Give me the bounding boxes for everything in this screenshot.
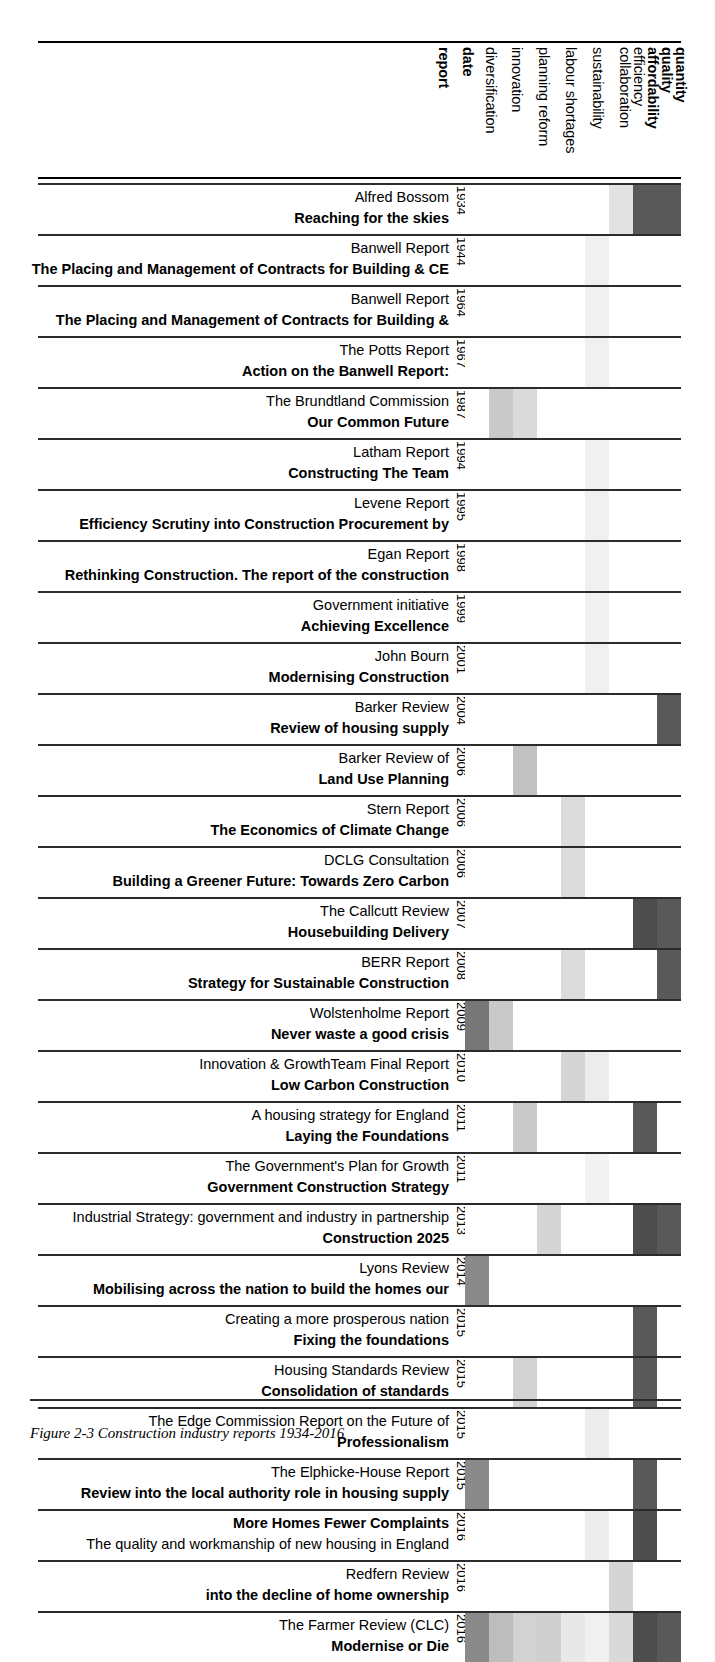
report-author: DCLG Consultation (0, 850, 455, 871)
report-title: Our Common Future (0, 412, 455, 433)
theme-cell (489, 746, 513, 795)
column-header-innovation: innovation (509, 47, 524, 112)
report-title: Efficiency Scrutiny into Construction Pr… (0, 514, 455, 535)
theme-cell (633, 1562, 657, 1611)
table-row: The Elphicke-House ReportReview into the… (0, 1458, 715, 1509)
table-row: Redfern Reviewinto the decline of home o… (0, 1560, 715, 1611)
column-header-diversification: diversification (483, 47, 498, 133)
row-labels: Barker Review ofLand Use Planning (0, 744, 455, 795)
theme-cell (513, 950, 537, 999)
theme-cell (561, 542, 585, 591)
theme-cell (585, 389, 609, 438)
column-header-quality: quality (659, 47, 674, 93)
theme-cell (537, 440, 561, 489)
theme-cell (513, 440, 537, 489)
theme-cell (537, 797, 561, 846)
theme-cell (657, 440, 681, 489)
report-title: Construction 2025 (0, 1228, 455, 1249)
table-row: More Homes Fewer ComplaintsThe quality a… (0, 1509, 715, 1560)
table-row: A housing strategy for EnglandLaying the… (0, 1101, 715, 1152)
theme-cell (633, 746, 657, 795)
report-title: The quality and workmanship of new housi… (0, 1534, 455, 1555)
theme-cell (609, 1103, 633, 1152)
theme-cell (609, 899, 633, 948)
theme-cell (489, 848, 513, 897)
table-row: Egan ReportRethinking Construction. The … (0, 540, 715, 591)
theme-cell (657, 899, 681, 948)
theme-cell (609, 440, 633, 489)
table-row: Banwell ReportThe Placing and Management… (0, 234, 715, 285)
theme-cell (657, 1511, 681, 1560)
report-author: Wolstenholme Report (0, 1003, 455, 1024)
table-row: The Callcutt ReviewHousebuilding Deliver… (0, 897, 715, 948)
report-author: Industrial Strategy: government and indu… (0, 1207, 455, 1228)
theme-cell (657, 1613, 681, 1662)
theme-cell (657, 797, 681, 846)
theme-cell (561, 1052, 585, 1101)
theme-cell (465, 695, 489, 744)
theme-cell (489, 950, 513, 999)
row-labels: A housing strategy for EnglandLaying the… (0, 1101, 455, 1152)
theme-cell (657, 1562, 681, 1611)
theme-cell (513, 593, 537, 642)
theme-cell (585, 644, 609, 693)
theme-cell (561, 1154, 585, 1203)
theme-cell (609, 236, 633, 285)
theme-cell (585, 695, 609, 744)
table-row: The Government's Plan for GrowthGovernme… (0, 1152, 715, 1203)
theme-cell (465, 1562, 489, 1611)
theme-cell (585, 848, 609, 897)
theme-cell (609, 1613, 633, 1662)
theme-cells (465, 1103, 681, 1152)
table-row: Innovation & GrowthTeam Final ReportLow … (0, 1050, 715, 1101)
theme-cells (465, 491, 681, 540)
theme-cells (465, 1511, 681, 1560)
theme-cell (657, 1103, 681, 1152)
theme-cell (657, 1052, 681, 1101)
theme-cell (513, 185, 537, 234)
theme-cell (585, 542, 609, 591)
theme-cell (537, 1205, 561, 1254)
row-labels: Egan ReportRethinking Construction. The … (0, 540, 455, 591)
theme-cell (465, 491, 489, 540)
theme-cell (633, 1205, 657, 1254)
theme-cell (513, 899, 537, 948)
theme-cell (585, 338, 609, 387)
theme-cell (633, 287, 657, 336)
row-labels: Levene ReportEfficiency Scrutiny into Co… (0, 489, 455, 540)
row-labels: The Farmer Review (CLC)Modernise or Die (0, 1611, 455, 1662)
theme-cell (561, 695, 585, 744)
table-row: The Farmer Review (CLC)Modernise or Die2… (0, 1611, 715, 1662)
theme-cell (489, 287, 513, 336)
theme-cell (513, 1103, 537, 1152)
theme-cell (633, 1307, 657, 1356)
theme-cell (561, 899, 585, 948)
theme-cell (657, 1307, 681, 1356)
theme-cell (657, 1154, 681, 1203)
row-labels: Latham ReportConstructing The Team (0, 438, 455, 489)
report-title: Government Construction Strategy (0, 1177, 455, 1198)
theme-cell (537, 185, 561, 234)
theme-cell (489, 1307, 513, 1356)
theme-cells (465, 1052, 681, 1101)
report-author: Levene Report (0, 493, 455, 514)
row-labels: John BournModernising Construction (0, 642, 455, 693)
theme-cell (537, 1256, 561, 1305)
report-title: Land Use Planning (0, 769, 455, 790)
theme-cell (633, 797, 657, 846)
theme-cell (537, 1613, 561, 1662)
theme-cell (585, 1562, 609, 1611)
theme-cell (537, 848, 561, 897)
theme-cell (657, 695, 681, 744)
theme-cell (489, 1562, 513, 1611)
table-row: Banwell ReportThe Placing and Management… (0, 285, 715, 336)
theme-cell (561, 1562, 585, 1611)
theme-cell (465, 746, 489, 795)
theme-cell (537, 287, 561, 336)
report-author: Alfred Bossom (0, 187, 455, 208)
column-header-quantity: quantity (673, 47, 688, 103)
theme-cell (489, 1613, 513, 1662)
report-title: Reaching for the skies (0, 208, 455, 229)
theme-cell (585, 1511, 609, 1560)
